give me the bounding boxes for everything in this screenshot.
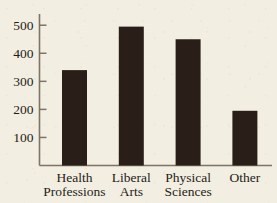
y-axis-tick-label: 300	[13, 74, 34, 89]
bar-chart-plot: 100200300400500 HealthProfessionsLiberal…	[0, 0, 277, 203]
y-axis-tick-label: 500	[13, 18, 34, 33]
bar	[62, 70, 87, 165]
x-axis-category-label: Liberal	[112, 170, 151, 185]
x-axis-category-label: Health	[57, 170, 93, 185]
x-axis-category-labels: HealthProfessionsLiberalArtsPhysicalScie…	[43, 170, 260, 199]
bar-series	[62, 27, 257, 166]
x-axis-category-label: Other	[230, 170, 261, 185]
x-axis-category-label: Arts	[120, 184, 143, 199]
y-axis-ticks	[40, 25, 47, 137]
x-axis-category-label: Physical	[165, 170, 211, 185]
bar	[119, 27, 144, 166]
y-axis-tick-labels: 100200300400500	[13, 18, 34, 145]
bar	[232, 111, 257, 166]
chart-figure: 100200300400500 HealthProfessionsLiberal…	[0, 0, 277, 203]
x-axis-category-label: Professions	[43, 184, 105, 199]
y-axis-tick-label: 200	[13, 102, 34, 117]
y-axis-tick-label: 400	[13, 46, 34, 61]
y-axis-tick-label: 100	[13, 130, 34, 145]
x-axis-category-label: Sciences	[164, 184, 211, 199]
bar	[176, 39, 201, 165]
